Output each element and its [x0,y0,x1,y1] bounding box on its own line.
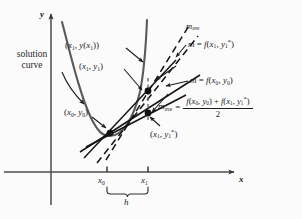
formula-fraction: f(x0, y0) + f(x1, y1*) 2 [183,96,252,119]
point-x1-y1-star [145,110,152,117]
solution-curve [62,20,147,136]
h-interval-label: h [124,198,129,207]
label-m-ave-top: mave [186,22,199,32]
h-brace [107,187,148,197]
tick-label-x1: x1 [141,176,148,186]
formula-numerator: f(x0, y0) + f(x1, y1*) [183,96,252,108]
leader-slope-fan [156,66,176,80]
formula-denominator: 2 [216,109,220,119]
leader-exact-point [126,48,143,62]
solution-curve-label: solution curve [4,49,60,71]
y-axis-label: y [40,4,44,21]
label-exact-point: (x1, y(x1)) [65,41,99,51]
x-axis-label: x [239,169,244,186]
euler-method-diagram [0,0,302,219]
tick-label-x0: x0 [98,176,105,186]
m-ave-formula: mave = f(x0, y0) + f(x1, y1*) 2 [158,96,253,119]
solution-curve-line2: curve [4,60,60,71]
leader-slope-f-x1 [176,45,186,57]
point-x1-y1 [145,88,152,95]
label-initial-point: (x0, y0) [64,108,88,118]
point-x0-y0 [107,130,114,137]
leader-approx-point [124,69,142,90]
label-slope-at-x0: m = f(x0, y0) [190,76,233,86]
label-predictor-point: (x1, y1*) [150,128,177,140]
label-slope-at-x1: m = f(x1, y1*) [188,38,234,50]
solution-curve-line1: solution [4,49,60,60]
formula-equals: = [175,103,180,112]
label-approx-point: (x1, y1) [79,62,103,72]
formula-lhs: mave [158,102,172,112]
